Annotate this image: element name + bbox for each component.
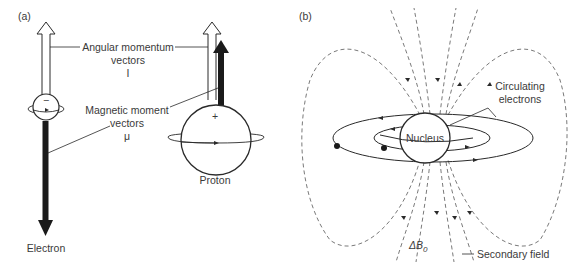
figure: (a) − Electron bbox=[0, 0, 568, 266]
panel-a: (a) − Electron bbox=[18, 10, 264, 254]
circulating-label: Circulating bbox=[495, 80, 545, 92]
circulating-label-2: electrons bbox=[499, 93, 542, 105]
panel-a-label: (a) bbox=[18, 10, 31, 22]
angular-momentum-label-2: vectors bbox=[111, 54, 145, 66]
electron-dot-icon bbox=[334, 143, 340, 149]
delta-b-label: ΔB0 bbox=[408, 239, 428, 254]
panel-b-label: (b) bbox=[299, 10, 312, 22]
angular-momentum-symbol: I bbox=[127, 67, 130, 79]
angular-momentum-label: Angular momentum bbox=[82, 41, 174, 53]
electron-charge: − bbox=[43, 94, 49, 106]
nucleus-label: Nucleus bbox=[406, 132, 444, 144]
magnetic-moment-symbol: μ bbox=[124, 130, 130, 142]
electron-label: Electron bbox=[27, 242, 66, 254]
magnetic-moment-label: Magnetic moment bbox=[85, 104, 169, 116]
electron-angular-momentum-arrow-icon bbox=[37, 22, 55, 95]
secondary-field-label: Secondary field bbox=[477, 248, 550, 260]
panel-b: (b) bbox=[299, 8, 567, 262]
electron-dot-icon bbox=[381, 145, 387, 151]
proton-label: Proton bbox=[200, 174, 231, 186]
electron-magnetic-moment-arrow-icon bbox=[38, 121, 53, 236]
proton-charge: + bbox=[212, 110, 218, 122]
magnetic-moment-label-2: vectors bbox=[110, 117, 144, 129]
